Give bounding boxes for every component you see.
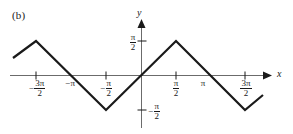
pi-glyph: π [71, 78, 76, 88]
fraction: π2 [130, 33, 137, 53]
fraction: π2 [173, 79, 180, 99]
x-tick-label-pi-over-2: π2 [168, 79, 184, 99]
pi-glyph: π [201, 78, 206, 88]
fraction: 3π2 [240, 79, 251, 99]
y-axis-label: y [137, 7, 141, 18]
x-tick-label-neg-pi-over-2: −π2 [92, 79, 120, 99]
figure-panel: (b) x y −3π2 −π [0, 0, 293, 134]
x-axis-label: x [277, 68, 281, 79]
y-tick-label-neg-pi-over-2: −π2 [148, 102, 174, 122]
fraction: π2 [154, 102, 161, 122]
x-tick-label-neg-pi: −π [61, 79, 79, 88]
fraction: 3π2 [34, 79, 45, 99]
x-tick-label-neg-3pi-over-2: −3π2 [20, 79, 54, 99]
x-tick-label-3pi-over-2: 3π2 [236, 79, 256, 99]
x-tick-label-pi: π [197, 79, 209, 88]
y-tick-label-pi-over-2: π2 [126, 33, 140, 53]
fraction: π2 [106, 79, 113, 99]
plot-canvas [0, 0, 293, 134]
